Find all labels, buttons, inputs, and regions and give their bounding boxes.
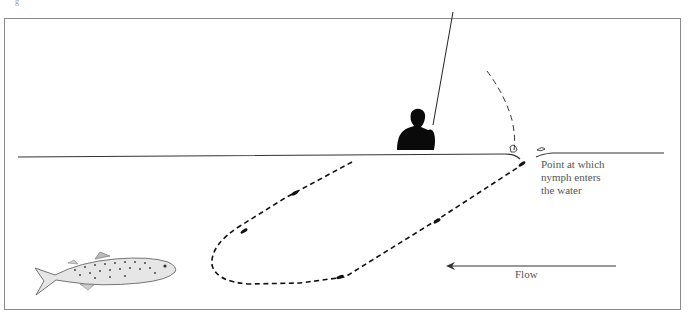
angler-silhouette — [397, 109, 435, 150]
water-surface-line-right — [536, 153, 664, 157]
entry-point-label: Point at which nymph enters the water — [541, 158, 631, 197]
dashed-cast-arc — [487, 71, 515, 150]
flow-label: Flow — [515, 268, 538, 281]
entry-point-line-2: nymph enters — [541, 171, 631, 184]
brown-trout — [35, 252, 176, 295]
nymph-icon — [518, 160, 526, 167]
nymph-icon — [336, 274, 345, 280]
nymph-markers — [240, 160, 526, 279]
water-surface-line — [18, 154, 520, 159]
nymph-icon — [240, 228, 248, 235]
splash-mark — [510, 145, 517, 152]
splash-mark-right — [537, 148, 545, 151]
entry-point-line-3: the water — [541, 184, 631, 197]
fly-rod — [433, 12, 453, 125]
entry-point-line-1: Point at which — [541, 158, 631, 171]
